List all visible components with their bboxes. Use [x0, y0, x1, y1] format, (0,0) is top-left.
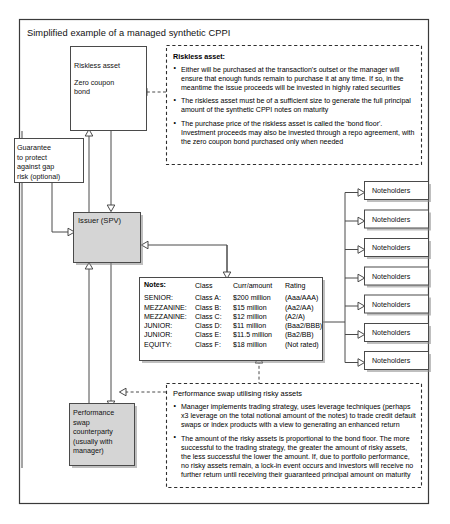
list-item: Manager implements trading strategy, use…: [173, 402, 416, 429]
notes-row-4-rating: (Ba2/BB): [285, 330, 322, 339]
notes-row-1-amount: $15 million: [233, 303, 285, 312]
notes-row-0-tranche: SENIOR:: [144, 293, 195, 302]
notes-header-class: Class: [195, 281, 233, 293]
table-row: EQUITY: Class F: $18 million (Not rated): [144, 340, 322, 349]
box-riskless-asset-label: Riskless asset Zero coupon bond: [74, 52, 120, 106]
notes-row-3-rating: (Baa2/BBB): [285, 321, 322, 330]
notes-table-title: Notes:: [144, 281, 166, 288]
noteholder-2-label: Noteholders: [372, 216, 410, 224]
notes-row-5-rating: (Not rated): [285, 340, 322, 349]
notes-row-2-class: Class C:: [195, 312, 233, 321]
noteholder-1-label: Noteholders: [372, 187, 410, 195]
callout-performance-swap-body: Performance swap utilising risky assets …: [173, 389, 416, 483]
callout-riskless-bullets: Either will be purchased at the transact…: [173, 65, 416, 146]
riskless-asset-line1: Riskless asset: [74, 61, 120, 70]
notes-row-5-class: Class F:: [195, 340, 233, 349]
notes-row-1-class: Class B:: [195, 303, 233, 312]
table-row: JUNIOR: Class D: $11 million (Baa2/BBB): [144, 321, 322, 330]
noteholder-5-label: Noteholders: [372, 301, 410, 309]
notes-row-0-rating: (Aaa/AAA): [285, 293, 322, 302]
table-row: MEZZANINE: Class C: $12 million (A2/A): [144, 312, 322, 321]
notes-row-0-class: Class A:: [195, 293, 233, 302]
page-title: Simplified example of a managed syntheti…: [27, 28, 230, 39]
box-swap-counterparty-label: Performance swap counterparty (usually w…: [73, 408, 114, 456]
notes-row-1-rating: (Aa2/AA): [285, 303, 322, 312]
box-guarantee-label: Guarantee to protect against gap risk (o…: [17, 143, 60, 182]
notes-table: Notes: Class Curr/amount Rating SENIOR: …: [144, 281, 322, 349]
notes-row-5-tranche: EQUITY:: [144, 340, 195, 349]
callout-riskless-asset-body: Riskless asset: Either will be purchased…: [173, 52, 416, 150]
notes-row-3-class: Class D:: [195, 321, 233, 330]
callout-swap-bullets: Manager implements trading strategy, use…: [173, 402, 416, 479]
diagram-canvas: Simplified example of a managed syntheti…: [0, 0, 450, 524]
list-item: The amount of the risky assets is propor…: [173, 434, 416, 479]
notes-row-2-amount: $12 million: [233, 312, 285, 321]
notes-row-4-amount: $11.5 million: [233, 330, 285, 339]
notes-header-rating: Rating: [285, 281, 322, 293]
notes-header-amount: Curr/amount: [233, 281, 285, 293]
callout-swap-title: Performance swap utilising risky assets: [173, 389, 416, 398]
list-item: The purchase price of the riskless asset…: [173, 119, 416, 146]
box-issuer-label: Issuer (SPV): [78, 217, 121, 226]
table-row: MEZZANINE: Class B: $15 million (Aa2/AA): [144, 303, 322, 312]
notes-row-2-tranche: MEZZANINE:: [144, 312, 195, 321]
notes-row-4-tranche: JUNIOR:: [144, 330, 195, 339]
list-item: Either will be purchased at the transact…: [173, 65, 416, 92]
notes-row-1-tranche: MEZZANINE:: [144, 303, 195, 312]
table-row: SENIOR: Class A: $200 million (Aaa/AAA): [144, 293, 322, 302]
notes-row-3-amount: $11 million: [233, 321, 285, 330]
noteholder-6-label: Noteholders: [372, 329, 410, 337]
noteholder-7-label: Noteholders: [372, 357, 410, 365]
riskless-asset-line2: Zero coupon bond: [74, 78, 120, 97]
notes-row-4-class: Class E:: [195, 330, 233, 339]
notes-table-header-row: Class Curr/amount Rating: [144, 281, 322, 293]
notes-row-0-amount: $200 million: [233, 293, 285, 302]
notes-row-5-amount: $18 million: [233, 340, 285, 349]
table-row: JUNIOR: Class E: $11.5 million (Ba2/BB): [144, 330, 322, 339]
notes-row-3-tranche: JUNIOR:: [144, 321, 195, 330]
notes-table-grid: Class Curr/amount Rating SENIOR: Class A…: [144, 281, 322, 349]
list-item: The riskless asset must be of a sufficie…: [173, 96, 416, 114]
callout-riskless-title: Riskless asset:: [173, 52, 416, 61]
notes-row-2-rating: (A2/A): [285, 312, 322, 321]
page-artifact-text: [17, 0, 21, 6]
noteholder-3-label: Noteholders: [372, 244, 410, 252]
noteholder-4-label: Noteholders: [372, 273, 410, 281]
